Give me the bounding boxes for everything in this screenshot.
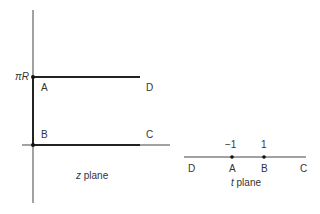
t-plane-caption: t plane bbox=[231, 178, 261, 188]
z-label-B: B bbox=[41, 130, 48, 140]
t-point-1 bbox=[262, 155, 266, 159]
t-label-C: C bbox=[300, 164, 307, 174]
t-plane-caption-rest: plane bbox=[234, 177, 261, 188]
z-point-A bbox=[31, 75, 35, 79]
z-label-A: A bbox=[41, 83, 48, 93]
z-point-B bbox=[31, 143, 35, 147]
z-label-C: C bbox=[146, 130, 153, 140]
t-label-D: D bbox=[188, 164, 195, 174]
t-tick-1: 1 bbox=[261, 140, 267, 150]
t-label-B: B bbox=[261, 164, 268, 174]
t-point-minus1 bbox=[230, 155, 234, 159]
diagram-canvas bbox=[0, 0, 320, 214]
z-pi-r-label: πR bbox=[15, 72, 29, 82]
z-plane-caption: z plane bbox=[76, 171, 108, 181]
t-tick-minus1: −1 bbox=[225, 140, 236, 150]
z-label-D: D bbox=[146, 83, 153, 93]
z-plane-caption-rest: plane bbox=[81, 170, 108, 181]
t-label-A: A bbox=[229, 164, 236, 174]
